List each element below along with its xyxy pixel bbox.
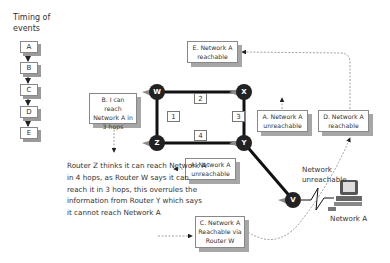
link-label-3: 3 bbox=[232, 111, 245, 122]
note-d: D. Network A reachable bbox=[318, 110, 369, 132]
timeline-title: Timing of events bbox=[13, 12, 73, 34]
router-w: W bbox=[149, 84, 165, 100]
network-a-label: Network A bbox=[330, 214, 367, 224]
router-y: Y bbox=[236, 135, 252, 151]
note-b: B. I can reach Network A in 3 hops bbox=[89, 93, 137, 124]
timeline-event-c: C bbox=[20, 84, 38, 96]
explanation-text: Router Z thinks it can reach Network A i… bbox=[67, 160, 207, 219]
link-label-1: 1 bbox=[167, 111, 180, 122]
timeline-event-d: D bbox=[20, 106, 38, 118]
timeline-event-e: E bbox=[20, 127, 38, 139]
router-z: Z bbox=[149, 135, 165, 151]
router-x: X bbox=[236, 84, 252, 100]
network-unreachable-label: Network unreachable bbox=[302, 165, 352, 185]
link-label-2: 2 bbox=[194, 93, 207, 104]
note-a-top: A. Network A unreachable bbox=[257, 110, 308, 132]
link-label-4: 4 bbox=[194, 130, 207, 141]
timeline-event-a: A bbox=[20, 41, 38, 53]
note-e: E. Network A reachable bbox=[187, 41, 238, 63]
timeline-event-b: B bbox=[20, 62, 38, 74]
note-c: C. Network A Reachable via Router W bbox=[195, 216, 245, 248]
router-v: V bbox=[285, 192, 301, 208]
